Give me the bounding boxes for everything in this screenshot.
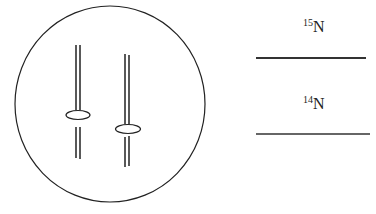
chromosome-2	[116, 54, 141, 167]
chromosome-1	[66, 45, 90, 159]
band-15n-label: 15N	[303, 17, 325, 35]
band-15n-element: N	[313, 18, 325, 35]
band-14n: 14N	[256, 94, 370, 134]
band-14n-element: N	[313, 95, 325, 112]
band-14n-mass-number: 14	[303, 94, 313, 105]
chromosome-1-centromere	[66, 111, 90, 120]
chromosome-2-centromere	[116, 125, 141, 134]
diagram-canvas: 15N 14N	[0, 0, 376, 214]
cell-circle	[15, 6, 205, 202]
band-15n: 15N	[256, 17, 366, 58]
band-15n-mass-number: 15	[303, 17, 313, 28]
band-14n-label: 14N	[303, 94, 325, 112]
